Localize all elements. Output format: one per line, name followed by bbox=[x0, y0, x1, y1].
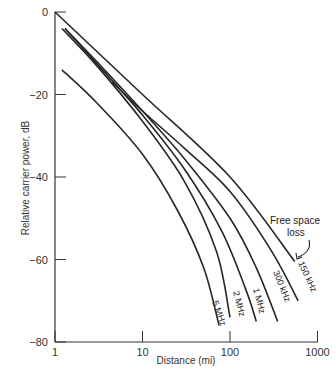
curves bbox=[55, 12, 298, 326]
free-space-annotation-line2: loss bbox=[287, 227, 305, 238]
x-tick-label: 10 bbox=[136, 346, 148, 358]
x-axis-title: Distance (mi) bbox=[157, 355, 216, 366]
y-ticks: 0−20−40−60−80 bbox=[29, 6, 66, 348]
curve-2-mhz bbox=[62, 29, 230, 318]
y-tick-label: −60 bbox=[29, 254, 48, 266]
curve-150-khz bbox=[112, 82, 298, 301]
label-5mhz: 5 MHz bbox=[210, 299, 228, 327]
x-tick-label: 100 bbox=[221, 346, 239, 358]
y-axis-title: Relative carrier power, dB bbox=[20, 120, 31, 235]
annotation-arrow-icon bbox=[298, 240, 310, 257]
curve-free-space-loss bbox=[55, 12, 295, 262]
y-tick-label: −40 bbox=[29, 171, 48, 183]
label-300khz: 300 kHz bbox=[271, 269, 293, 304]
free-space-annotation-line1: Free space bbox=[270, 215, 320, 226]
label-150khz: 150 kHz bbox=[296, 260, 319, 295]
propagation-chart: 0−20−40−60−80 1101001000 Relative carrie… bbox=[0, 0, 336, 374]
y-tick-label: −80 bbox=[29, 336, 48, 348]
x-ticks: 1101001000 bbox=[52, 331, 330, 358]
x-tick-label: 1 bbox=[52, 346, 58, 358]
label-2mhz: 2 MHz bbox=[231, 290, 248, 318]
y-tick-label: 0 bbox=[42, 6, 48, 18]
x-tick-label: 1000 bbox=[305, 346, 329, 358]
y-tick-label: −20 bbox=[29, 89, 48, 101]
curve-300-khz bbox=[65, 29, 278, 322]
